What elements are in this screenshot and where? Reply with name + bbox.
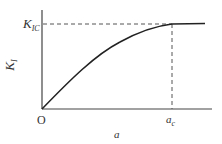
ki-curve — [42, 24, 205, 110]
origin-label: O — [37, 114, 46, 127]
ac-label: ac — [166, 113, 175, 130]
x-axis-label: a — [114, 128, 120, 141]
y-axis-label: KI — [3, 59, 21, 70]
kic-label: KIC — [23, 17, 40, 35]
